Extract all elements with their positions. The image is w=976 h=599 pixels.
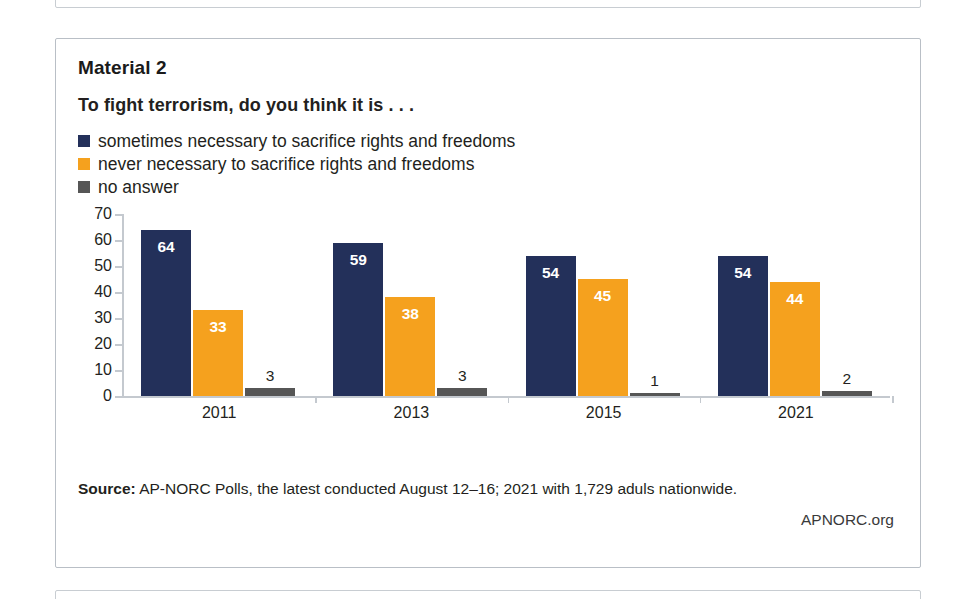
legend-label: never necessary to sacrifice rights and … — [98, 153, 474, 175]
bar: 33 — [193, 310, 243, 396]
y-tick-label: 30 — [94, 309, 112, 327]
chart-question-title: To fight terrorism, do you think it is .… — [78, 95, 898, 116]
source-text: AP-NORC Polls, the latest conducted Augu… — [136, 480, 737, 497]
y-tick-label: 70 — [94, 205, 112, 223]
bar-value-label: 54 — [526, 265, 576, 281]
x-axis-divider-tick — [508, 396, 510, 403]
material-card: Material 2 To fight terrorism, do you th… — [55, 38, 921, 568]
source-note: Source: AP-NORC Polls, the latest conduc… — [78, 480, 898, 498]
bar-group: 54451 — [508, 214, 700, 396]
y-tick-label: 40 — [94, 283, 112, 301]
bar-value-label: 3 — [245, 368, 295, 384]
y-tick-mark — [115, 214, 122, 216]
chart-legend: sometimes necessary to sacrifice rights … — [78, 129, 898, 198]
material-label: Material 2 — [78, 57, 898, 79]
y-tick-label: 60 — [94, 231, 112, 249]
y-tick-mark — [115, 344, 122, 346]
legend-item: sometimes necessary to sacrifice rights … — [78, 129, 898, 152]
bar-value-label: 3 — [437, 368, 487, 384]
bar-value-label: 64 — [141, 239, 191, 255]
bar: 54 — [718, 256, 768, 396]
y-tick-label: 10 — [94, 361, 112, 379]
bar: 64 — [141, 230, 191, 396]
y-tick-label: 50 — [94, 257, 112, 275]
x-axis-divider-tick — [315, 396, 317, 403]
adjacent-box-below — [55, 590, 921, 599]
bar-value-label: 38 — [385, 306, 435, 322]
bar-group: 59383 — [315, 214, 507, 396]
source-prefix: Source: — [78, 480, 136, 497]
bar-value-label: 45 — [578, 288, 628, 304]
bar: 54 — [526, 256, 576, 396]
bar: 44 — [770, 282, 820, 396]
legend-label: sometimes necessary to sacrifice rights … — [98, 130, 515, 152]
plot-area: 64333593835445154442 — [123, 214, 890, 396]
y-tick-label: 20 — [94, 335, 112, 353]
bar: 45 — [578, 279, 628, 396]
x-axis-divider-tick — [892, 396, 894, 403]
y-tick-mark — [115, 292, 122, 294]
legend-item: no answer — [78, 175, 898, 198]
x-tick-label: 2021 — [700, 404, 892, 422]
x-tick-label: 2015 — [508, 404, 700, 422]
adjacent-box-above — [55, 0, 921, 8]
bar-group: 54442 — [700, 214, 892, 396]
bar-value-label: 44 — [770, 291, 820, 307]
x-axis-divider-tick — [700, 396, 702, 403]
legend-swatch-icon — [78, 158, 90, 170]
legend-swatch-icon — [78, 181, 90, 193]
bar-value-label: 1 — [630, 373, 680, 389]
bar-value-label: 2 — [822, 371, 872, 387]
legend-swatch-icon — [78, 135, 90, 147]
legend-label: no answer — [98, 176, 179, 198]
y-tick-label: 0 — [103, 387, 112, 405]
bar-chart: 706050403020100 64333593835445154442 201… — [78, 214, 898, 419]
x-axis-line — [116, 396, 890, 398]
bar-group: 64333 — [123, 214, 315, 396]
y-tick-mark — [115, 240, 122, 242]
bar: 3 — [245, 388, 295, 396]
y-tick-mark — [115, 370, 122, 372]
x-tick-label: 2011 — [123, 404, 315, 422]
bar: 38 — [385, 297, 435, 396]
x-tick-label: 2013 — [315, 404, 507, 422]
bar-value-label: 33 — [193, 319, 243, 335]
bar: 59 — [333, 243, 383, 396]
attribution-label: APNORC.org — [801, 511, 894, 529]
legend-item: never necessary to sacrifice rights and … — [78, 152, 898, 175]
bar: 3 — [437, 388, 487, 396]
y-tick-mark — [115, 318, 122, 320]
y-tick-mark — [115, 266, 122, 268]
bar-value-label: 59 — [333, 252, 383, 268]
bar-value-label: 54 — [718, 265, 768, 281]
y-axis-labels: 706050403020100 — [78, 214, 112, 396]
page-root: Material 2 To fight terrorism, do you th… — [0, 0, 976, 599]
